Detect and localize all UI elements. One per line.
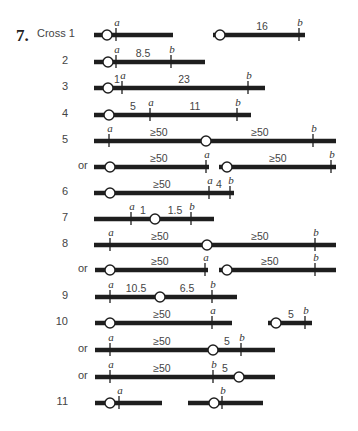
chromosome-map-diagram: ab16ab8.5ab123ab511ab≥50≥50a≥50b≥50ab≥50… (0, 0, 358, 431)
gene-a-label: a (107, 122, 113, 134)
chromosome-row: ab≥504 (94, 174, 234, 199)
gene-b-label: b (235, 96, 241, 108)
chromosome: ab511 (94, 96, 251, 121)
map-distance-label: 5 (130, 100, 136, 112)
chromosome: ab≥50≥50 (94, 122, 336, 147)
map-distance-label: ≥50 (153, 362, 171, 374)
centromere-icon (104, 110, 114, 120)
gene-a-label: a (204, 148, 210, 160)
centromere-icon (105, 162, 115, 172)
chromosome: a (95, 384, 162, 409)
gene-b-label: b (239, 331, 245, 343)
chromosome-row: ab≥505 (95, 331, 275, 356)
chromosome-row: a≥50b≥50 (94, 148, 336, 173)
gene-b-label: b (189, 200, 195, 212)
map-distance-label: ≥50 (251, 126, 269, 138)
gene-a-label: a (108, 226, 114, 238)
centromere-icon (102, 30, 112, 40)
gene-b-label: b (311, 122, 317, 134)
chromosome: ab≥504 (94, 174, 234, 199)
centromere-icon (234, 372, 244, 382)
map-distance-label: ≥50 (153, 335, 171, 347)
centromere-icon (222, 162, 232, 172)
gene-a-label: a (117, 384, 123, 396)
chromosome-row: ab≥505 (95, 358, 275, 383)
chromosome: ab10.56.5 (95, 278, 237, 303)
chromosome: a≥50 (95, 304, 232, 329)
chromosome: ab≥505 (95, 331, 275, 356)
centromere-icon (105, 188, 115, 198)
gene-a-label: a (129, 200, 135, 212)
chromosome: b≥50 (219, 148, 336, 173)
centromere-icon (202, 240, 212, 250)
map-distance-label: ≥50 (150, 152, 168, 164)
gene-a-label: a (114, 43, 120, 55)
map-distance-label: ≥50 (153, 178, 171, 190)
centromere-icon (155, 292, 165, 302)
gene-b-label: b (228, 174, 234, 186)
gene-a-label: a (210, 304, 216, 316)
gene-b-label: b (313, 251, 319, 263)
gene-b-label: b (246, 69, 252, 81)
chromosome-row: ab511 (94, 96, 251, 121)
map-distance-label: 1.5 (168, 204, 183, 216)
map-distance-label: ≥50 (251, 230, 269, 242)
gene-a-label: a (203, 251, 209, 263)
centromere-icon (105, 398, 115, 408)
map-distance-label: ≥50 (150, 126, 168, 138)
map-distance-label: 1 (140, 204, 146, 216)
gene-b-label: b (210, 278, 216, 290)
map-distance-label: ≥50 (269, 152, 287, 164)
chromosome-row: a≥50b≥50 (95, 251, 336, 276)
centromere-icon (208, 345, 218, 355)
centromere-icon (271, 318, 281, 328)
gene-a-label: a (108, 278, 114, 290)
chromosome-row: ab123 (94, 69, 265, 94)
centromere-icon (105, 265, 115, 275)
centromere-icon (105, 318, 115, 328)
gene-a-label: a (148, 96, 154, 108)
chromosome: ab123 (94, 69, 265, 94)
map-distance-label: ≥50 (153, 308, 171, 320)
chromosome: ab11.5 (94, 200, 214, 225)
map-distance-label: 1 (114, 73, 120, 85)
map-distance-label: 6.5 (180, 282, 195, 294)
chromosome: b5 (268, 304, 312, 329)
chromosome-row: ab≥50≥50 (94, 122, 336, 147)
map-distance-label: ≥50 (261, 255, 279, 267)
chromosome-row: ab10.56.5 (95, 278, 237, 303)
centromere-icon (222, 265, 232, 275)
gene-b-label: b (220, 384, 226, 396)
chromosome: a≥50 (95, 251, 209, 276)
centromere-icon (201, 136, 211, 146)
chromosome: b16 (213, 16, 305, 41)
gene-b-label: b (297, 16, 303, 28)
chromosome: a≥50 (94, 148, 210, 173)
chromosome: b≥50 (219, 251, 336, 276)
chromosome-row: ab (95, 384, 263, 409)
chromosome: b (188, 384, 263, 409)
map-distance-label: 5 (222, 362, 228, 374)
gene-a-label: a (207, 174, 213, 186)
chromosome: ab≥505 (95, 358, 275, 383)
map-distance-label: 5 (288, 308, 294, 320)
gene-a-label: a (108, 358, 114, 370)
gene-a-label: a (120, 69, 126, 81)
map-distance-label: 23 (178, 73, 190, 85)
gene-b-label: b (169, 43, 175, 55)
centromere-icon (103, 83, 113, 93)
chromosome: a (94, 16, 173, 41)
map-distance-label: 11 (190, 100, 201, 112)
chromosome-row: ab8.5 (94, 43, 205, 68)
centromere-icon (209, 398, 219, 408)
map-distance-label: ≥50 (151, 230, 169, 242)
gene-a-label: a (108, 331, 114, 343)
gene-b-label: b (329, 148, 335, 160)
centromere-icon (150, 214, 160, 224)
chromosome: ab≥50≥50 (94, 226, 336, 251)
chromosome: ab8.5 (94, 43, 205, 68)
map-distance-label: 10.5 (126, 282, 147, 294)
map-distance-label: ≥50 (151, 255, 169, 267)
gene-b-label: b (211, 358, 217, 370)
chromosome-row: ab11.5 (94, 200, 214, 225)
